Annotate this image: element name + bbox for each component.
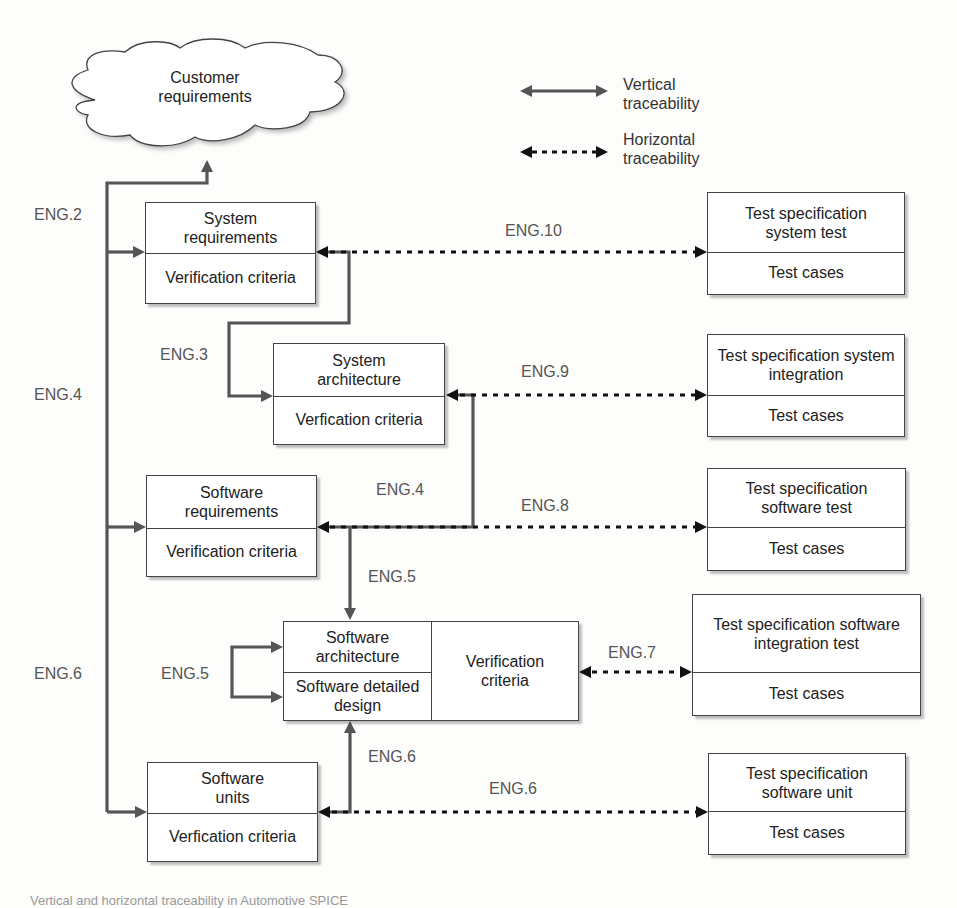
label-eng6-up: ENG.6: [368, 748, 416, 766]
test-spec-system-integration-box: Test specification system integration Te…: [707, 334, 905, 437]
label-eng8: ENG.8: [521, 497, 569, 515]
label-eng5-loop: ENG.5: [161, 665, 209, 683]
label-eng5-down: ENG.5: [368, 568, 416, 586]
test-cases-label: Test cases: [693, 671, 920, 715]
test-spec-title: Test specification software unit: [709, 754, 905, 812]
legend-vertical-line1: Vertical: [623, 75, 699, 94]
cloud-label-line2: requirements: [95, 87, 315, 106]
software-architecture-verification-cell: Verification criteria: [432, 622, 578, 720]
software-architecture-cell: Software architecture: [284, 622, 431, 673]
label-eng2: ENG.2: [34, 206, 82, 224]
label-eng10: ENG.10: [505, 222, 562, 240]
box-title: Software requirements: [147, 476, 316, 529]
legend-horizontal-line2: traceability: [623, 149, 699, 168]
legend-horizontal-label: Horizontal traceability: [623, 130, 699, 168]
test-spec-title: Test specification software integration …: [693, 595, 920, 673]
system-requirements-box: System requirements Verification criteri…: [145, 202, 316, 304]
test-spec-system-test-box: Test specification system test Test case…: [707, 192, 905, 295]
label-eng4-left: ENG.4: [34, 386, 82, 404]
box-verification: Verification criteria: [147, 527, 316, 576]
test-spec-software-unit-box: Test specification software unit Test ca…: [708, 753, 906, 855]
test-cases-label: Test cases: [708, 251, 904, 294]
label-eng6-left: ENG.6: [34, 665, 82, 683]
test-spec-software-integration-box: Test specification software integration …: [692, 594, 921, 716]
legend-vertical-label: Vertical traceability: [623, 75, 699, 113]
box-verification: Verfication criteria: [274, 395, 444, 444]
box-title: System architecture: [274, 344, 444, 397]
software-requirements-box: Software requirements Verification crite…: [146, 475, 317, 577]
figure-caption: Vertical and horizontal traceability in …: [30, 893, 348, 908]
legend-horizontal-line1: Horizontal: [623, 130, 699, 149]
test-cases-label: Test cases: [708, 526, 905, 570]
system-architecture-box: System architecture Verfication criteria: [273, 343, 445, 445]
box-title: Software units: [148, 763, 317, 814]
test-spec-title: Test specification system integration: [708, 335, 904, 396]
test-cases-label: Test cases: [708, 394, 904, 436]
cloud-label-line1: Customer: [95, 68, 315, 87]
legend-vertical-line2: traceability: [623, 94, 699, 113]
label-eng6-horizontal: ENG.6: [489, 780, 537, 798]
forward-arrowheads: [680, 246, 708, 818]
label-eng9: ENG.9: [521, 363, 569, 381]
test-spec-title: Test specification system test: [708, 193, 904, 253]
architecture-column: Software architecture Software detailed …: [284, 622, 432, 720]
test-spec-software-test-box: Test specification software test Test ca…: [707, 468, 906, 571]
test-cases-label: Test cases: [709, 810, 905, 854]
software-architecture-design-box: Software architecture Software detailed …: [283, 621, 579, 721]
label-eng3: ENG.3: [160, 346, 208, 364]
box-title: System requirements: [146, 203, 315, 254]
software-units-box: Software units Verfication criteria: [147, 762, 318, 862]
software-detailed-design-cell: Software detailed design: [284, 672, 431, 720]
legend-horizontal-arrow: [520, 146, 608, 158]
label-eng4-mid: ENG.4: [376, 481, 424, 499]
label-eng7: ENG.7: [608, 644, 656, 662]
box-verification: Verfication criteria: [148, 812, 317, 861]
back-arrowheads: [316, 246, 591, 818]
legend-vertical-arrow: [520, 85, 608, 97]
horizontal-traceability-lines: [330, 252, 697, 812]
customer-requirements-cloud: Customer requirements: [95, 68, 315, 106]
box-verification: Verification criteria: [146, 252, 315, 303]
test-spec-title: Test specification software test: [708, 469, 905, 528]
